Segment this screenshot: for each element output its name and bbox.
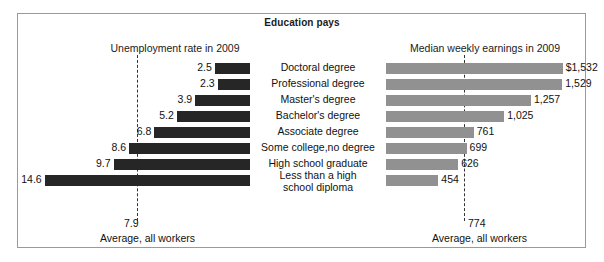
earnings-bar <box>386 63 563 74</box>
unemployment-value-label: 5.2 <box>159 109 177 122</box>
right-average-value: 774 <box>468 217 486 229</box>
category-label: High school graduate <box>252 158 384 170</box>
earnings-value-label: 626 <box>458 157 479 170</box>
unemployment-bar <box>154 127 250 138</box>
unemployment-value-label: 9.7 <box>96 157 114 170</box>
table-row: 454 <box>386 174 582 190</box>
table-row: 3.9 <box>25 94 250 110</box>
category-label-line: school diploma <box>252 182 384 194</box>
earnings-bar <box>386 159 458 170</box>
earnings-value-label: 1,257 <box>531 93 560 106</box>
unemployment-bar <box>195 95 250 106</box>
education-pays-chart: Education pays Unemployment rate in 2009… <box>0 0 604 262</box>
category-label-line: Associate degree <box>252 126 384 138</box>
earnings-value-label: 1,025 <box>504 109 533 122</box>
earnings-bar <box>386 143 467 154</box>
category-label-line: Bachelor's degree <box>252 110 384 122</box>
table-row: 5.2 <box>25 110 250 126</box>
table-row: 6.8 <box>25 126 250 142</box>
category-label: Doctoral degree <box>252 62 384 74</box>
category-label-line: Less than a high <box>252 170 384 182</box>
table-row: 8.6 <box>25 142 250 158</box>
earnings-bar <box>386 127 474 138</box>
unemployment-value-label: 6.8 <box>137 125 155 138</box>
earnings-value-label: 761 <box>474 125 495 138</box>
page-title: Education pays <box>0 17 604 28</box>
median-earnings-plot: $1,5321,5291,2571,025761699626454 <box>386 62 582 214</box>
unemployment-bar <box>45 175 250 186</box>
table-row: 1,257 <box>386 94 582 110</box>
unemployment-bar <box>215 63 250 74</box>
right-chart-subtitle: Median weekly earnings in 2009 <box>370 42 600 54</box>
category-label: Bachelor's degree <box>252 110 384 122</box>
table-row: 9.7 <box>25 158 250 174</box>
left-average-value: 7.9 <box>124 217 139 229</box>
unemployment-value-label: 14.6 <box>21 173 44 186</box>
unemployment-value-label: 3.9 <box>178 93 196 106</box>
category-label: Professional degree <box>252 78 384 90</box>
unemployment-value-label: 2.3 <box>200 77 218 90</box>
category-label-line: Master's degree <box>252 94 384 106</box>
category-label-line: High school graduate <box>252 158 384 170</box>
table-row: 761 <box>386 126 582 142</box>
table-row: 2.3 <box>25 78 250 94</box>
unemployment-rate-plot: 2.52.33.95.26.88.69.714.6 <box>25 62 250 214</box>
table-row: 699 <box>386 142 582 158</box>
earnings-bar <box>386 95 531 106</box>
table-row: 626 <box>386 158 582 174</box>
unemployment-value-label: 2.5 <box>197 61 215 74</box>
category-label: Associate degree <box>252 126 384 138</box>
table-row: 1,025 <box>386 110 582 126</box>
table-row: 2.5 <box>25 62 250 78</box>
earnings-bar <box>386 175 438 186</box>
earnings-value-label: 1,529 <box>562 77 591 90</box>
earnings-bar <box>386 111 504 122</box>
right-axis-footer: Average, all workers <box>372 232 587 244</box>
table-row: 1,529 <box>386 78 582 94</box>
unemployment-bar <box>218 79 250 90</box>
category-label: Some college,no degree <box>252 142 384 154</box>
table-row: 14.6 <box>25 174 250 190</box>
left-axis-footer: Average, all workers <box>40 232 255 244</box>
unemployment-bar <box>177 111 250 122</box>
category-label-line: Professional degree <box>252 78 384 90</box>
earnings-bar <box>386 79 562 90</box>
earnings-value-label: $1,532 <box>563 61 598 74</box>
unemployment-bar <box>114 159 250 170</box>
unemployment-value-label: 8.6 <box>111 141 129 154</box>
left-chart-subtitle: Unemployment rate in 2009 <box>60 42 290 54</box>
unemployment-bar <box>129 143 250 154</box>
earnings-value-label: 699 <box>467 141 488 154</box>
earnings-value-label: 454 <box>438 173 459 186</box>
category-label: Master's degree <box>252 94 384 106</box>
table-row: $1,532 <box>386 62 582 78</box>
category-label-line: Some college,no degree <box>252 142 384 154</box>
category-label-line: Doctoral degree <box>252 62 384 74</box>
category-label: Less than a highschool diploma <box>252 170 384 193</box>
